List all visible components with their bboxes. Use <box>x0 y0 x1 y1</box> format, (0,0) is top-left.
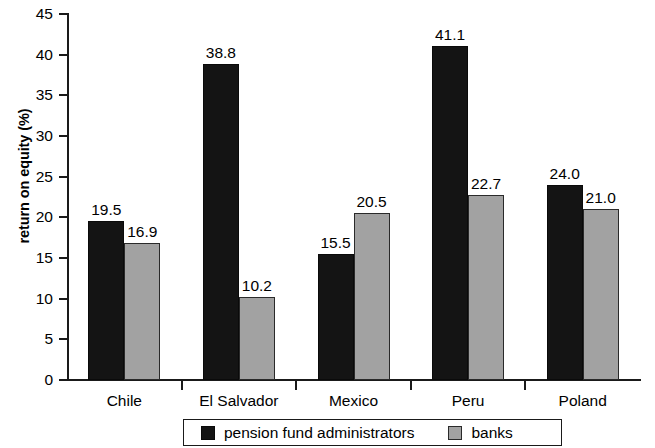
x-axis-category-separator <box>410 380 412 390</box>
bar-poland-pension-fund-administrators <box>547 185 583 380</box>
y-axis-tick-label: 30 <box>5 128 53 144</box>
bar-value-label: 10.2 <box>227 278 287 294</box>
y-axis-tick-label: 15 <box>5 250 53 266</box>
chart-legend: pension fund administrators banks <box>183 419 562 446</box>
bar-mexico-banks <box>354 213 390 380</box>
bar-value-label: 19.5 <box>76 202 136 218</box>
y-axis-tick-label: 40 <box>5 47 53 63</box>
y-axis-tick-label: 25 <box>5 169 53 185</box>
y-axis-tick-label: 0 <box>5 372 53 388</box>
bar-peru-banks <box>468 195 504 380</box>
x-axis-category-separator <box>181 380 183 390</box>
bar-value-label: 38.8 <box>191 45 251 61</box>
bar-el-salvador-banks <box>239 297 275 380</box>
legend-item-pension-fund-administrators: pension fund administrators <box>201 425 414 441</box>
bar-chart: return on equity (%) 051015202530354045 … <box>0 0 655 448</box>
bar-el-salvador-pension-fund-administrators <box>203 64 239 380</box>
bar-value-label: 16.9 <box>112 224 172 240</box>
y-axis-tick-label: 45 <box>5 6 53 22</box>
legend-label-banks: banks <box>471 425 512 441</box>
x-axis-category-separator <box>295 380 297 390</box>
x-axis-origin-tick <box>67 371 69 381</box>
bar-value-label: 21.0 <box>571 190 631 206</box>
bar-mexico-pension-fund-administrators <box>318 254 354 380</box>
legend-item-banks: banks <box>448 425 512 441</box>
x-axis-label-poland: Poland <box>503 392 655 409</box>
plot-area: 19.516.938.810.215.520.541.122.724.021.0 <box>67 14 640 380</box>
bar-chile-pension-fund-administrators <box>88 221 124 380</box>
y-axis-tick-label: 20 <box>5 209 53 225</box>
bar-value-label: 24.0 <box>535 166 595 182</box>
legend-label-pension-fund-administrators: pension fund administrators <box>224 425 414 441</box>
bar-poland-banks <box>583 209 619 380</box>
bar-value-label: 41.1 <box>420 27 480 43</box>
bar-value-label: 20.5 <box>342 194 402 210</box>
bar-peru-pension-fund-administrators <box>432 46 468 380</box>
bar-value-label: 22.7 <box>456 176 516 192</box>
black-square-swatch-icon <box>201 426 215 440</box>
bar-chile-banks <box>124 243 160 380</box>
y-axis-tick-label: 5 <box>5 331 53 347</box>
y-axis-tick-label: 10 <box>5 291 53 307</box>
y-axis-tick-label: 35 <box>5 87 53 103</box>
x-axis-category-separator <box>524 380 526 390</box>
gray-square-swatch-icon <box>448 426 462 440</box>
